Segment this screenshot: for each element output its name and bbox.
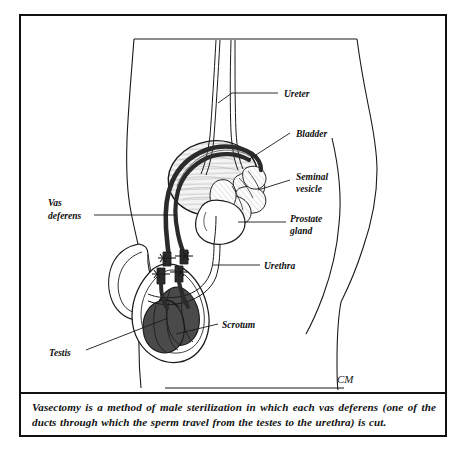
prostate-gland bbox=[196, 200, 245, 244]
caption-box: Vasectomy is a method of male sterilizat… bbox=[21, 392, 445, 435]
label-vas-deferens-line1: Vas bbox=[48, 198, 62, 208]
label-prostate-gland-line1: Prostate bbox=[290, 214, 323, 224]
label-bladder: Bladder bbox=[295, 129, 327, 139]
leader-bladder bbox=[248, 133, 290, 160]
label-vas-deferens-line2: deferens bbox=[48, 211, 82, 221]
caption-text: Vasectomy is a method of male sterilizat… bbox=[32, 400, 436, 429]
label-ureter: Ureter bbox=[284, 89, 310, 99]
figure-page: Ureter Bladder Seminal vesicle Prostate … bbox=[0, 0, 464, 451]
label-seminal-vesicle-line2: vesicle bbox=[296, 184, 323, 194]
label-urethra: Urethra bbox=[264, 261, 295, 271]
artist-signature: CM bbox=[337, 373, 354, 385]
cut-site-upper bbox=[158, 250, 193, 266]
label-scrotum: Scrotum bbox=[222, 320, 255, 330]
signature-text: CM bbox=[337, 373, 354, 385]
label-seminal-vesicle-line1: Seminal bbox=[296, 172, 329, 182]
anatomy-illustration: Ureter Bladder Seminal vesicle Prostate … bbox=[0, 0, 464, 451]
label-testis: Testis bbox=[49, 348, 71, 358]
label-prostate-gland-line2: gland bbox=[289, 226, 312, 236]
